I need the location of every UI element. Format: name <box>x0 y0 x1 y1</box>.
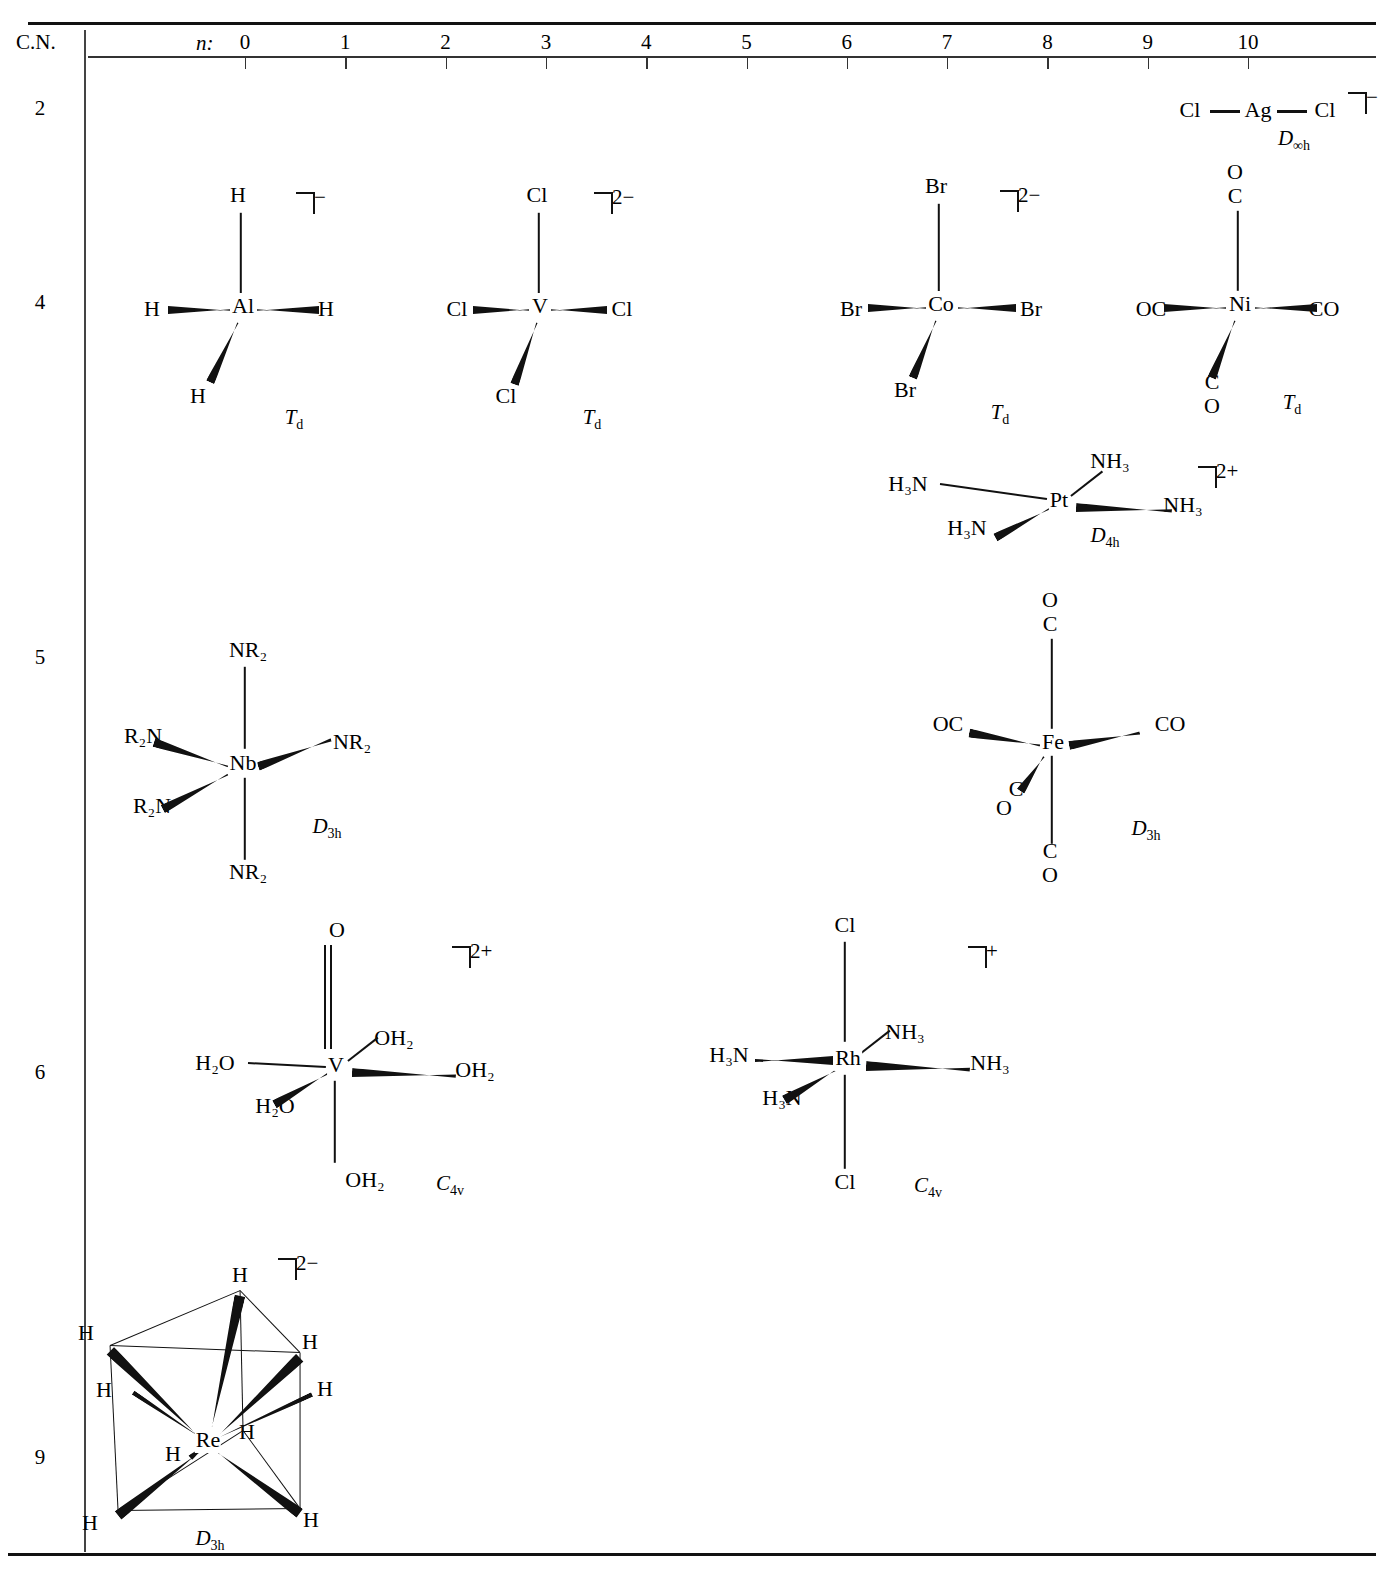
axis-tick-label: 6 <box>842 30 853 55</box>
bond <box>844 1075 846 1169</box>
wedge-bond <box>868 304 926 312</box>
symmetry-label: C4v <box>436 1171 464 1199</box>
wedge-bond <box>958 304 1016 312</box>
axis-tick-label: 3 <box>541 30 552 55</box>
figure-page: C.N. n: 012345678910 2 4 5 6 9 Cl Ag Cl … <box>0 0 1381 1576</box>
ligand-label: H₃N <box>888 471 927 497</box>
ligand-label: NH₃ <box>970 1050 1009 1076</box>
center-atom-co: Co <box>927 291 955 317</box>
symmetry-label: C4v <box>914 1173 942 1201</box>
ligand-label: H <box>78 1320 94 1346</box>
center-atom-al: Al <box>231 293 255 319</box>
ligand-label: H <box>96 1377 112 1403</box>
ligand-label: H <box>165 1441 181 1467</box>
axis-tick-label: 8 <box>1042 30 1053 55</box>
ligand-atom-o: O <box>1227 159 1243 185</box>
bond <box>1051 639 1053 729</box>
ligand-label: H₂O <box>195 1050 234 1076</box>
ligand-atom-o: O <box>996 795 1012 821</box>
symmetry-label: D3h <box>195 1526 224 1554</box>
ligand-label: Cl <box>835 1169 856 1195</box>
wedge-bond <box>168 306 230 314</box>
ligand-label: NH₃ <box>1163 492 1202 518</box>
bond <box>1277 110 1307 113</box>
row-label-cn5: 5 <box>35 645 46 670</box>
axis-tick-label: 0 <box>240 30 251 55</box>
center-atom-rh: Rh <box>834 1045 862 1071</box>
row-label-cn6: 6 <box>35 1060 46 1085</box>
bond <box>1051 756 1053 844</box>
bond <box>1070 471 1103 497</box>
ligand-label: CO <box>1155 711 1186 737</box>
ligand-atom-o: O <box>1042 862 1058 888</box>
symmetry-label: Td <box>583 405 602 433</box>
ligand-label: Cl <box>612 296 633 322</box>
wedge-bond <box>909 319 941 380</box>
wedge-bond <box>152 738 229 771</box>
cluster-edge <box>110 1345 300 1353</box>
bond <box>538 213 540 295</box>
symmetry-label: D4h <box>1090 523 1119 551</box>
wedge-bond <box>1208 319 1240 380</box>
ligand-label: OC <box>1136 296 1167 322</box>
axis-tick <box>245 57 246 69</box>
bond <box>248 1062 326 1068</box>
axis-tick-label: 9 <box>1142 30 1153 55</box>
ligand-label: H₃N <box>709 1042 748 1068</box>
ligand-label: NH₃ <box>1090 448 1129 474</box>
axis-tick <box>847 57 848 69</box>
bond <box>1210 110 1240 113</box>
ligand-label: OH₂ <box>345 1167 384 1193</box>
charge-label: 2+ <box>470 939 492 964</box>
ligand-label: Br <box>894 377 916 403</box>
bond <box>1237 211 1239 291</box>
symmetry-label: D3h <box>1131 816 1160 844</box>
axis-tick-label: 7 <box>942 30 953 55</box>
axis-tick-label: 1 <box>340 30 351 55</box>
ligand-label: OH₂ <box>455 1057 494 1083</box>
symmetry-label: Td <box>991 400 1010 428</box>
ligand-label: H <box>190 383 206 409</box>
wedge-bond <box>551 306 607 314</box>
ligand-label: NR₂ <box>229 637 267 663</box>
charge-bracket: 2+ <box>1198 466 1217 488</box>
wedge-bond <box>1076 503 1172 515</box>
bond <box>334 1081 336 1163</box>
row-label-cn9: 9 <box>35 1445 46 1470</box>
ligand-label: H <box>144 296 160 322</box>
cluster-edge <box>243 1430 301 1509</box>
ligand-label: H <box>82 1510 98 1536</box>
axis-tick <box>1148 57 1149 69</box>
cluster-edge <box>299 1353 300 1509</box>
cn-header: C.N. <box>16 30 56 55</box>
axis-tick-label: 2 <box>440 30 451 55</box>
cluster-edge <box>110 1290 240 1346</box>
wedge-bond <box>968 729 1040 750</box>
ligand-label: H₃N <box>947 515 986 541</box>
axis-tick-label: 5 <box>741 30 752 55</box>
wedge-bond <box>206 321 242 385</box>
wedge-bond <box>257 306 319 314</box>
axis-tick <box>646 57 647 69</box>
charge-bracket: 2− <box>1000 190 1019 212</box>
row-label-cn2: 2 <box>35 96 46 121</box>
axis-tick <box>345 57 346 69</box>
charge-bracket: 2− <box>594 192 613 214</box>
ligand-atom-c: C <box>1043 611 1058 637</box>
bond <box>844 942 846 1042</box>
ligand-label: Cl <box>835 912 856 938</box>
wedge-bond <box>1255 304 1317 312</box>
ligand-label: Br <box>925 173 947 199</box>
axis-tick <box>947 57 948 69</box>
top-rule <box>28 22 1376 25</box>
charge-bracket: 2+ <box>452 946 471 968</box>
wedge-bond <box>866 1061 970 1075</box>
wedge-bond <box>352 1068 456 1081</box>
ligand-label: NR₂ <box>229 859 267 885</box>
wedge-bond <box>755 1056 833 1065</box>
center-atom-ag: Ag <box>1244 97 1273 123</box>
charge-label: 2− <box>1018 183 1040 208</box>
symmetry-label: Td <box>285 405 304 433</box>
center-atom-ni: Ni <box>1228 291 1252 317</box>
axis-tick <box>546 57 547 69</box>
